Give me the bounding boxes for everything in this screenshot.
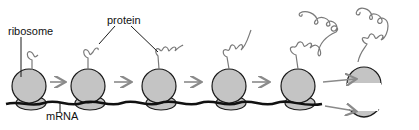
mrna-label: mRNA (46, 110, 78, 122)
ribosome-stage-4 (212, 30, 251, 110)
ribosome-stage-5 (281, 12, 337, 110)
protein-leader-line-2 (131, 26, 158, 52)
released-protein-icon (356, 8, 388, 62)
arrow-5-lower-icon (325, 106, 355, 111)
protein-leader-line-1 (99, 26, 115, 44)
ribosome-label: ribosome (8, 25, 53, 37)
protein-label: protein (107, 14, 141, 26)
ribosome-stage-3 (142, 45, 183, 110)
ribosome-stage-1 (12, 52, 46, 110)
ribosome-large-subunit-released (347, 67, 381, 84)
